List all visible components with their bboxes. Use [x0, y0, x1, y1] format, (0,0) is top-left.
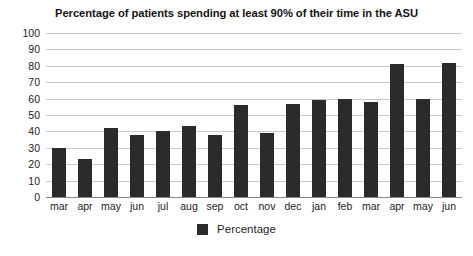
bar [442, 63, 456, 197]
y-axis-tick-label: 40 [0, 126, 40, 137]
bar [364, 102, 378, 197]
y-axis-tick-label: 0 [0, 192, 40, 203]
legend-item-label: Percentage [217, 224, 276, 236]
bar [338, 99, 352, 197]
y-axis-tick-label: 80 [0, 61, 40, 72]
y-axis-tick-label: 90 [0, 44, 40, 55]
y-axis-tick-label: 30 [0, 143, 40, 154]
y-axis-tick-label: 60 [0, 93, 40, 104]
square-swatch-icon [197, 224, 208, 235]
y-axis-tick-label: 100 [0, 28, 40, 39]
bars-series-percentage [46, 33, 462, 197]
gridline [46, 197, 462, 198]
legend-item-percentage: Percentage [197, 224, 276, 236]
bar [156, 131, 170, 197]
y-axis-tick-label: 10 [0, 175, 40, 186]
bar [286, 104, 300, 197]
plot-area [46, 33, 462, 197]
bar [208, 135, 222, 197]
chart-title: Percentage of patients spending at least… [0, 7, 473, 19]
chart-legend: Percentage [0, 224, 473, 236]
bar [260, 133, 274, 197]
bar [130, 135, 144, 197]
bar [78, 159, 92, 197]
bar [52, 148, 66, 197]
bar [312, 100, 326, 197]
bar [104, 128, 118, 197]
x-axis-tick-label: jun [434, 199, 464, 213]
bar [416, 99, 430, 197]
x-axis-tick-labels: maraprmayjunjulaugsepoctnovdecjanfebmara… [46, 199, 462, 215]
bar [234, 105, 248, 197]
y-axis-tick-label: 70 [0, 77, 40, 88]
y-axis-tick-label: 20 [0, 159, 40, 170]
bar-chart-figure: Percentage of patients spending at least… [0, 0, 473, 256]
bar [390, 64, 404, 197]
y-axis-tick-label: 50 [0, 110, 40, 121]
bar [182, 126, 196, 197]
y-axis-tick-labels: 1009080706050403020100 [0, 33, 40, 197]
